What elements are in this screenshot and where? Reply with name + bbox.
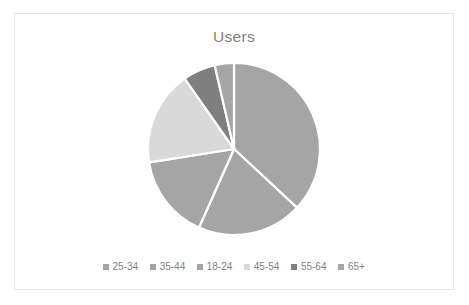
legend-item-label: 18-24	[207, 262, 233, 272]
legend-item-25-34[interactable]: 25-34	[103, 262, 138, 272]
legend-item-label: 45-54	[254, 262, 280, 272]
legend-item-65plus[interactable]: 65+	[338, 262, 364, 272]
chart-container: Users 25-3435-4418-2445-5455-6465+	[14, 13, 454, 290]
pie-plot-area	[15, 14, 455, 291]
chart-legend: 25-3435-4418-2445-5455-6465+	[15, 262, 453, 272]
legend-item-label: 55-64	[301, 262, 327, 272]
legend-swatch-icon	[338, 264, 344, 270]
legend-item-label: 65+	[348, 262, 365, 272]
legend-item-55-64[interactable]: 55-64	[291, 262, 326, 272]
legend-swatch-icon	[150, 264, 156, 270]
legend-item-35-44[interactable]: 35-44	[150, 262, 185, 272]
legend-item-label: 35-44	[160, 262, 186, 272]
legend-swatch-icon	[244, 264, 250, 270]
legend-item-label: 25-34	[113, 262, 139, 272]
legend-swatch-icon	[291, 264, 297, 270]
pie-chart-graphic	[15, 14, 455, 291]
legend-swatch-icon	[197, 264, 203, 270]
legend-swatch-icon	[103, 264, 109, 270]
pie-slice-group	[148, 63, 320, 235]
legend-item-45-54[interactable]: 45-54	[244, 262, 279, 272]
legend-item-18-24[interactable]: 18-24	[197, 262, 232, 272]
